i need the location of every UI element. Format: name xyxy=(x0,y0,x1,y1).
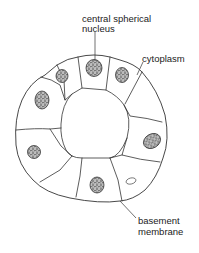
nucleus-left xyxy=(35,91,49,109)
label-cytoplasm: cytoplasm xyxy=(142,53,185,64)
nucleus-upper-left xyxy=(56,70,68,83)
nucleus-bottom xyxy=(90,177,104,193)
epithelium-diagram: central spherical nucleus cytoplasm base… xyxy=(0,0,199,253)
label-membrane-line2: membrane xyxy=(138,226,183,237)
nucleus-lower-left xyxy=(28,146,41,159)
nucleus-top xyxy=(86,60,102,77)
label-nucleus-line2: nucleus xyxy=(82,23,115,34)
nucleus-upper-right xyxy=(116,68,129,83)
label-membrane-line1: basement xyxy=(138,215,180,226)
lumen xyxy=(61,88,129,158)
membrane-leader-line xyxy=(120,201,136,218)
